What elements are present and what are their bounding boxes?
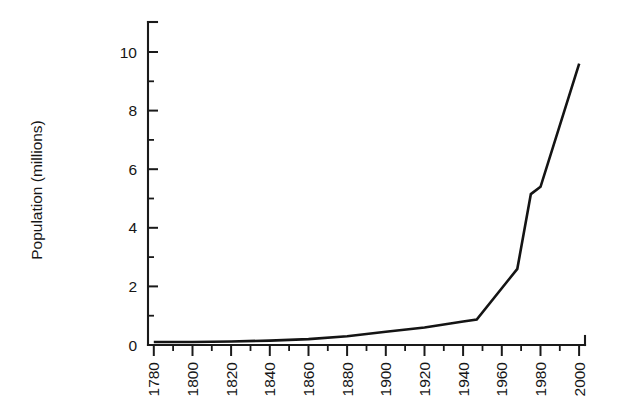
- x-tick-label-1880: 1880: [339, 362, 356, 397]
- y-tick-label-8: 8: [128, 102, 137, 119]
- x-tick-label-1780: 1780: [145, 362, 162, 397]
- population-line-chart: Population (millions) 0 2 4 6 8 10: [0, 0, 619, 416]
- x-tick-label-1940: 1940: [455, 362, 472, 397]
- y-tick-label-6: 6: [128, 161, 137, 178]
- x-tick-label-1820: 1820: [223, 362, 240, 397]
- y-axis-tick-labels: 0 2 4 6 8 10: [120, 44, 138, 354]
- x-tick-label-1800: 1800: [184, 362, 201, 397]
- x-axis-tick-labels: 1780 1800 1820 1840 1860 1880 1900 1920 …: [145, 362, 587, 397]
- x-tick-label-1900: 1900: [377, 362, 394, 397]
- y-tick-label-2: 2: [128, 278, 137, 295]
- x-tick-label-1840: 1840: [261, 362, 278, 397]
- x-axis-ticks: [154, 345, 579, 356]
- y-tick-label-4: 4: [128, 219, 137, 236]
- population-series-line: [154, 64, 579, 342]
- x-tick-label-1920: 1920: [416, 362, 433, 397]
- y-axis-title: Population (millions): [28, 120, 45, 260]
- x-tick-label-1960: 1960: [493, 362, 510, 397]
- chart-figure: Population (millions) 0 2 4 6 8 10: [0, 0, 619, 416]
- x-tick-label-1980: 1980: [532, 362, 549, 397]
- y-tick-label-0: 0: [128, 337, 137, 354]
- y-tick-label-10: 10: [120, 44, 138, 61]
- x-tick-label-2000: 2000: [571, 362, 588, 397]
- x-tick-label-1860: 1860: [300, 362, 317, 397]
- y-axis-ticks: [148, 52, 158, 345]
